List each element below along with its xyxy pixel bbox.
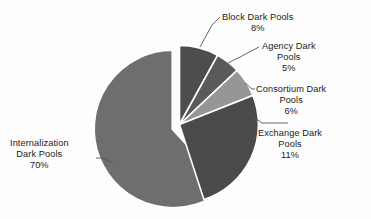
slice-label-agency: Agency Dark Pools 5% (262, 41, 316, 75)
slice-label-agency-line1: Agency Dark (262, 41, 316, 52)
slice-label-exchange-pct: 11% (258, 150, 322, 161)
slice-label-internalization: Internalization Dark Pools 70% (10, 138, 69, 172)
slice-label-block: Block Dark Pools 8% (222, 12, 293, 34)
slice-label-agency-line2: Pools (262, 52, 316, 63)
slice-label-exchange: Exchange Dark Pools 11% (258, 128, 322, 162)
slice-label-internalization-pct: 70% (10, 160, 69, 171)
leader-line-agency (228, 47, 259, 63)
slice-label-consortium-line2: Pools (256, 95, 326, 106)
slice-label-agency-pct: 5% (262, 63, 316, 74)
slice-label-block-pct: 8% (222, 23, 293, 34)
pie-chart: Block Dark Pools 8% Agency Dark Pools 5%… (0, 0, 371, 219)
slice-label-internalization-line2: Dark Pools (10, 149, 69, 160)
slice-label-consortium-line1: Consortium Dark (256, 84, 326, 95)
slice-label-consortium-pct: 6% (256, 106, 326, 117)
slice-label-exchange-line1: Exchange Dark (258, 128, 322, 139)
pie-slices (94, 46, 259, 208)
slice-label-consortium: Consortium Dark Pools 6% (256, 84, 326, 118)
slice-label-exchange-line2: Pools (258, 139, 322, 150)
leader-line-block (200, 17, 220, 47)
slice-label-block-line1: Block Dark Pools (222, 12, 293, 23)
slice-label-internalization-line1: Internalization (10, 138, 69, 149)
